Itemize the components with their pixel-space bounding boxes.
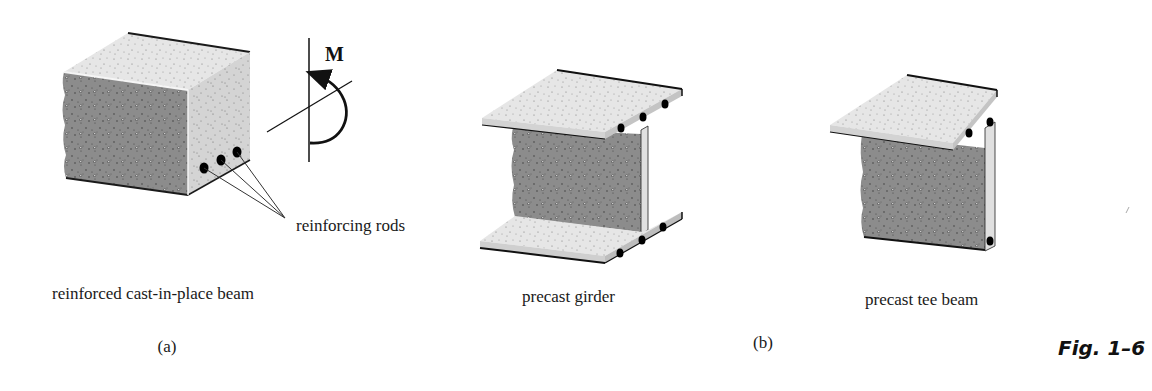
panel-b-sublabel: (b) (753, 333, 773, 352)
reinforcing-rod (640, 113, 647, 122)
panel-a-sublabel: (a) (158, 337, 177, 356)
moment-arrow-icon (310, 75, 346, 143)
moment-symbol: M (267, 38, 352, 162)
girder-web-face (512, 128, 642, 232)
reinforcing-rod (987, 118, 994, 127)
precast-tee-beam-drawing (830, 75, 997, 251)
caption-precast-girder: precast girder (522, 287, 615, 306)
tee-web-side (985, 122, 995, 251)
reinforcing-rod (660, 223, 667, 232)
figure-number: Fig. 1–6 (1058, 336, 1145, 360)
reinforcing-rod (966, 129, 973, 138)
moment-label: M (325, 43, 344, 65)
panel-a: M reinforcing rods reinforced cast-in-pl… (52, 33, 405, 356)
caption-precast-tee-beam: precast tee beam (865, 290, 978, 309)
reinforcing-rod (662, 100, 669, 109)
reinforcing-rods-label: reinforcing rods (296, 216, 405, 235)
panel-b: precast girder precast tee beam (b) (480, 70, 997, 352)
reinforcing-rod (617, 249, 624, 258)
stray-mark (1126, 207, 1129, 213)
figure-canvas: M reinforcing rods reinforced cast-in-pl… (0, 0, 1152, 391)
reinforcing-rod (987, 237, 994, 246)
beam-front-face (63, 72, 189, 195)
tee-web-face (861, 134, 986, 250)
reinforcing-rod (618, 124, 625, 133)
precast-girder-drawing (480, 70, 682, 263)
reinforcing-rod (639, 236, 646, 245)
girder-web-side (641, 126, 648, 234)
caption-cast-in-place-beam: reinforced cast-in-place beam (52, 284, 254, 303)
cast-in-place-beam-drawing (63, 33, 286, 218)
